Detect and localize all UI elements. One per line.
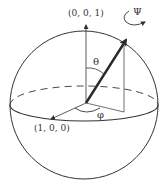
phi-label: φ <box>97 110 104 120</box>
equator-front <box>10 105 158 121</box>
theta-label: θ <box>93 57 99 67</box>
projection-line <box>86 103 124 112</box>
equator-back-dashed <box>10 86 158 105</box>
psi-label: Ψ <box>133 7 142 17</box>
x-axis-label: (1, 0, 0) <box>34 124 70 133</box>
bloch-sphere-diagram <box>0 0 167 186</box>
theta-arc <box>86 68 104 74</box>
state-vector-arrow <box>86 40 126 103</box>
z-axis-label: (0, 0, 1) <box>68 9 104 18</box>
sphere-outline <box>10 31 158 179</box>
